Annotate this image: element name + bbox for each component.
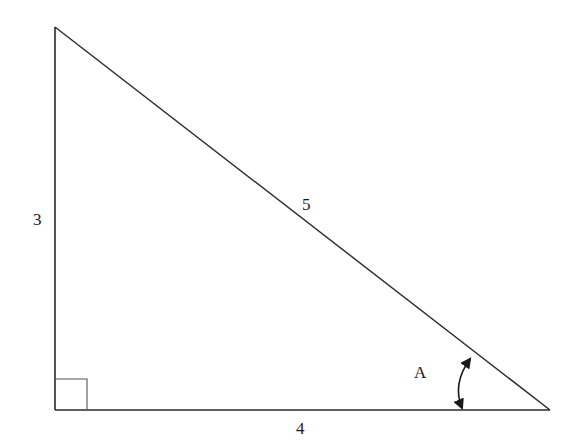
right-angle-marker	[55, 379, 87, 410]
vertical-leg-label: 3	[33, 210, 42, 229]
hypotenuse	[55, 27, 550, 410]
horizontal-leg-label: 4	[296, 419, 305, 438]
hypotenuse-label: 5	[302, 195, 311, 214]
angle-label: A	[414, 363, 427, 382]
angle-arc-icon	[458, 359, 470, 408]
triangle-diagram: 3 4 5 A	[0, 0, 581, 446]
